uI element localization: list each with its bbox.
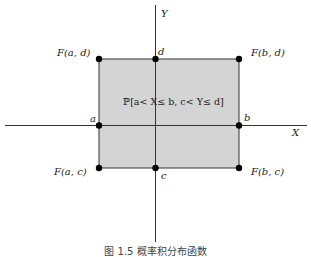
- region-probability-label: ℙ[a< X≤ b, c< Y≤ d]: [123, 97, 224, 107]
- tick-label-c: c: [161, 171, 167, 181]
- point-a-d: [96, 56, 102, 62]
- tick-label-a: a: [90, 114, 96, 124]
- point-b-c: [236, 165, 242, 171]
- corner-label-F-a-d: F(a, d): [57, 48, 90, 58]
- point-a-c: [96, 165, 102, 171]
- x-axis-label: X: [292, 128, 299, 138]
- tick-label-d: d: [158, 47, 164, 57]
- point-b: [236, 122, 242, 128]
- point-a: [96, 122, 102, 128]
- point-c: [152, 165, 158, 171]
- corner-label-F-a-c: F(a, c): [54, 167, 87, 177]
- corner-label-F-b-d: F(b, d): [251, 48, 285, 58]
- tick-label-b: b: [244, 113, 250, 123]
- corner-label-F-b-c: F(b, c): [251, 167, 284, 177]
- point-b-d: [236, 56, 242, 62]
- y-axis-label: Y: [161, 9, 168, 19]
- probability-region: [99, 59, 239, 168]
- figure-caption: 图 1.5 概率积分布函数: [0, 247, 311, 257]
